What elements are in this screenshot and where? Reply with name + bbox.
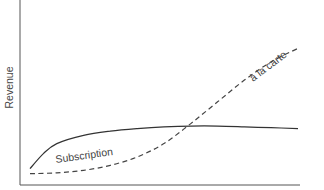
revenue-chart: Revenue Subscription à la carte — [0, 0, 324, 190]
y-axis-label: Revenue — [3, 66, 15, 108]
subscription-label: Subscription — [55, 145, 114, 165]
a-la-carte-label: à la carte — [247, 48, 289, 84]
